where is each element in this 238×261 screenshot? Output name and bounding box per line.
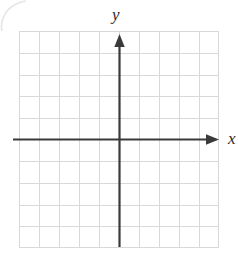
coordinate-grid-figure: y x bbox=[0, 0, 238, 261]
y-axis-label: y bbox=[112, 6, 120, 23]
scan-artifact-arc bbox=[1, 1, 26, 31]
x-axis-arrowhead bbox=[206, 134, 219, 144]
x-axis bbox=[13, 134, 219, 144]
y-axis-arrowhead bbox=[114, 34, 124, 47]
x-axis-label: x bbox=[228, 130, 236, 147]
coordinate-plane-svg bbox=[0, 0, 238, 261]
